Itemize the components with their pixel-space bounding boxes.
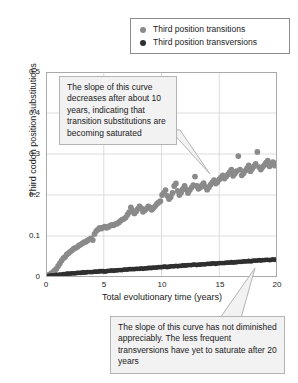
circle-icon — [140, 40, 146, 46]
legend-label-transitions: Third position transitions — [153, 23, 245, 36]
figure: Third position transitions Third positio… — [0, 0, 298, 383]
y-tick-0.5: 0.5 — [16, 67, 40, 76]
y-tick-0.3: 0.3 — [16, 149, 40, 158]
legend-item-transitions: Third position transitions — [137, 23, 283, 36]
x-tick-10: 10 — [150, 280, 174, 289]
y-tick-0.1: 0.1 — [16, 231, 40, 240]
x-tick-5: 5 — [92, 280, 116, 289]
callout-tail-transversions — [215, 268, 275, 320]
callout-transversions: The slope of this curve has not diminish… — [110, 316, 285, 374]
chart-legend: Third position transitions Third positio… — [130, 18, 290, 54]
y-tick-0.2: 0.2 — [16, 190, 40, 199]
y-tick-0.4: 0.4 — [16, 108, 40, 117]
x-tick-0: 0 — [34, 280, 58, 289]
legend-label-transversions: Third position transversions — [153, 36, 257, 49]
callout-transitions: The slope of this curve decreases after … — [59, 76, 177, 145]
legend-item-transversions: Third position transversions — [137, 36, 283, 49]
circle-icon — [140, 27, 146, 33]
